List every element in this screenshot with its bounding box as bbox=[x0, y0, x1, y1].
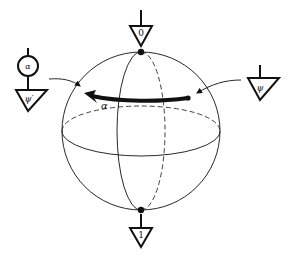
rotation-arrow: α bbox=[84, 90, 191, 111]
right-gadget-state-label: ψ bbox=[256, 83, 264, 93]
left-pointer-arrow bbox=[49, 79, 80, 86]
left-gadget: α ψ′ bbox=[16, 48, 80, 111]
right-pointer-arrow bbox=[197, 80, 241, 93]
bottom-effect-label: 1 bbox=[138, 230, 144, 240]
bloch-sphere-diagram: 0 1 α ψ′ ψ α bbox=[0, 0, 292, 257]
sphere-outline bbox=[62, 52, 220, 210]
rotation-label: α bbox=[101, 100, 108, 111]
equator-back bbox=[62, 106, 220, 131]
diagram-svg: 0 1 α ψ′ ψ α bbox=[0, 0, 292, 257]
meridian-back bbox=[141, 52, 165, 210]
top-effect: 0 bbox=[130, 10, 152, 46]
bottom-effect: 1 bbox=[130, 214, 152, 247]
south-pole-dot bbox=[138, 207, 144, 213]
meridian-front bbox=[117, 52, 141, 210]
sphere bbox=[62, 49, 220, 213]
left-gadget-phase-label: α bbox=[25, 62, 31, 71]
right-gadget: ψ bbox=[197, 65, 279, 100]
equator-front bbox=[62, 131, 220, 156]
north-pole-dot bbox=[138, 49, 144, 55]
left-gadget-state-label: ψ′ bbox=[24, 94, 33, 104]
top-effect-label: 0 bbox=[138, 28, 144, 38]
